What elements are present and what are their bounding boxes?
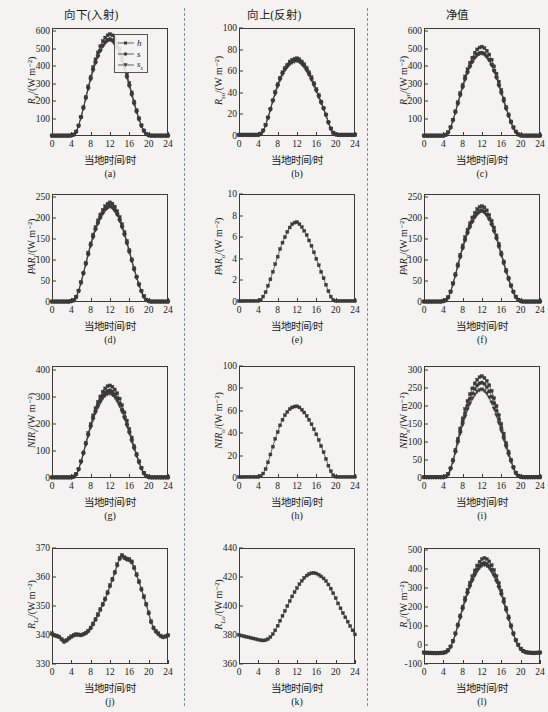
legend-label-ss: ss xyxy=(137,59,143,71)
x-tick-label: 4 xyxy=(69,667,74,677)
y-tick-label: 40 xyxy=(228,428,238,438)
panel-l: -100010020030040050004812162024Rn/(W m⁻²… xyxy=(366,524,548,712)
series-s xyxy=(50,37,170,137)
x-tick-mark xyxy=(168,660,169,664)
x-tick-label: 0 xyxy=(50,139,55,149)
x-tick-label: 24 xyxy=(163,139,173,149)
y-axis-label: PARn/(W m⁻²) xyxy=(398,217,411,277)
x-tick-label: 16 xyxy=(125,139,135,149)
y-axis-label: RLi/(W m⁻²) xyxy=(26,575,39,635)
x-tick-label: 12 xyxy=(292,139,302,149)
panel-g: 010020030040004812162024NIRi/(W m⁻²)当地时间… xyxy=(0,346,183,524)
series-h xyxy=(238,57,357,137)
series-s xyxy=(50,204,170,303)
y-tick-label: 600 xyxy=(408,26,422,36)
panel-i: 05010015020025030004812162024NIRn/(W m⁻²… xyxy=(366,346,548,524)
series-h xyxy=(238,405,357,479)
column-divider-2 xyxy=(367,8,368,706)
legend: hsss xyxy=(114,34,148,73)
series-h xyxy=(51,201,170,303)
x-tick-label: 0 xyxy=(237,481,242,491)
panel-label: (d) xyxy=(32,334,188,345)
x-tick-label: 12 xyxy=(477,139,487,149)
y-tick-label: 100 xyxy=(36,114,50,124)
series-layer xyxy=(424,548,540,664)
x-tick-label: 20 xyxy=(144,139,154,149)
y-tick-label: 80 xyxy=(228,383,238,393)
panel-label: (j) xyxy=(32,696,188,707)
x-axis-label: 当地时间/时 xyxy=(219,318,375,333)
y-tick-label: 600 xyxy=(36,26,50,36)
y-tick-label: 80 xyxy=(228,45,238,55)
x-tick-label: 4 xyxy=(69,481,74,491)
series-ss xyxy=(237,59,357,137)
x-tick-label: 12 xyxy=(105,139,115,149)
y-tick-label: 250 xyxy=(36,192,50,202)
x-axis-label: 当地时间/时 xyxy=(32,152,188,167)
series-s xyxy=(50,554,170,644)
x-tick-label: 20 xyxy=(144,481,154,491)
x-tick-label: 4 xyxy=(256,667,261,677)
x-tick-label: 4 xyxy=(69,139,74,149)
series-layer xyxy=(239,194,355,302)
legend-item-h: h xyxy=(117,37,143,48)
series-s xyxy=(422,51,542,138)
panel-label: (l) xyxy=(404,696,548,707)
x-tick-label: 8 xyxy=(88,139,93,149)
x-tick-label: 8 xyxy=(88,305,93,315)
panel-label: (k) xyxy=(219,696,375,707)
x-tick-label: 24 xyxy=(350,139,360,149)
x-tick-label: 12 xyxy=(105,667,115,677)
x-tick-label: 24 xyxy=(350,481,360,491)
x-tick-label: 0 xyxy=(50,481,55,491)
x-tick-label: 16 xyxy=(312,305,322,315)
y-axis-label: RLo/(W m⁻²) xyxy=(213,575,226,635)
x-tick-label: 16 xyxy=(497,305,507,315)
series-s xyxy=(50,388,170,479)
x-axis-label: 当地时间/时 xyxy=(219,494,375,509)
series-h xyxy=(423,205,542,303)
x-tick-label: 0 xyxy=(237,305,242,315)
x-axis-label: 当地时间/时 xyxy=(32,318,188,333)
x-axis-label: 当地时间/时 xyxy=(32,680,188,695)
x-tick-label: 0 xyxy=(422,139,427,149)
x-tick-label: 20 xyxy=(144,305,154,315)
x-tick-label: 20 xyxy=(516,667,526,677)
x-tick-label: 8 xyxy=(275,667,280,677)
x-tick-label: 24 xyxy=(535,667,545,677)
column-title: 向下(入射) xyxy=(0,6,183,22)
legend-marker-h xyxy=(117,38,135,48)
x-tick-label: 8 xyxy=(460,481,465,491)
panel-e: 024681004812162024PARo/(W m⁻²)当地时间/时(e) xyxy=(183,178,366,346)
y-axis-label: PARo/(W m⁻²) xyxy=(213,217,226,277)
x-tick-label: 16 xyxy=(125,481,135,491)
x-tick-label: 24 xyxy=(535,305,545,315)
series-ss xyxy=(50,205,170,304)
x-tick-label: 12 xyxy=(292,481,302,491)
x-tick-label: 12 xyxy=(292,667,302,677)
x-tick-label: 16 xyxy=(312,139,322,149)
x-axis-label: 当地时间/时 xyxy=(404,494,548,509)
series-h xyxy=(423,556,542,654)
series-ss xyxy=(422,388,542,480)
panel-label: (f) xyxy=(404,334,548,345)
x-tick-label: 4 xyxy=(69,305,74,315)
y-tick-label: 20 xyxy=(228,109,238,119)
legend-label-s: s xyxy=(137,49,141,59)
y-tick-label: 60 xyxy=(228,406,238,416)
panel-j: 33034035036037004812162024RLi/(W m⁻²)当地时… xyxy=(0,524,183,712)
panel-d: 05010015020025004812162024PARi/(W m⁻²)当地… xyxy=(0,178,183,346)
series-layer xyxy=(52,548,168,664)
y-axis-label: Rsi/(W m⁻²) xyxy=(26,51,39,111)
y-tick-label: -100 xyxy=(405,659,422,669)
x-tick-label: 24 xyxy=(163,667,173,677)
x-tick-label: 0 xyxy=(50,667,55,677)
x-tick-label: 20 xyxy=(331,667,341,677)
series-s xyxy=(422,561,542,655)
x-tick-label: 20 xyxy=(516,481,526,491)
x-axis-label: 当地时间/时 xyxy=(404,152,548,167)
legend-marker-s xyxy=(117,49,135,59)
x-axis-label: 当地时间/时 xyxy=(219,152,375,167)
y-tick-label: 250 xyxy=(408,192,422,202)
series-ss xyxy=(422,563,542,655)
